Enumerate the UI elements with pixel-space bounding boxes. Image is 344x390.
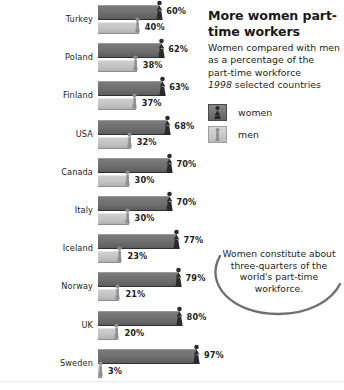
male-figure-icon [97,361,104,377]
value-label-men: 40% [145,22,165,32]
bar-women [98,158,169,173]
value-label-women: 79% [186,273,206,283]
legend-item-men: men [208,124,344,146]
female-figure-icon [175,306,184,327]
bar-women [98,234,177,249]
male-figure-icon [134,17,141,33]
female-figure-icon [174,267,183,288]
value-label-men: 21% [125,289,145,299]
chart-row: Sweden97%3% [0,346,200,385]
value-label-men: 3% [108,366,122,376]
country-label: Sweden [0,359,93,368]
bar-group: 60%40% [98,2,200,41]
infographic-root: Turkey60%40%Poland62%38%Finland63%37%USA… [0,0,344,390]
female-figure-icon [155,0,164,21]
country-label: UK [0,321,93,330]
callout-text: Women constitute about three-quarters of… [220,248,338,294]
subtitle-line-3: part-time workforce [208,67,344,79]
male-figure-icon [114,284,121,300]
chart-row: Canada70%30% [0,155,200,194]
value-label-women: 80% [187,312,207,322]
legend-item-women: women [208,102,344,124]
chart-row: Finland63%37% [0,78,200,117]
chart-row: Turkey60%40% [0,2,200,41]
male-figure-icon [208,126,227,143]
source-year: 1998 [208,79,232,90]
value-label-men: 20% [124,328,144,338]
bar-women [98,311,180,326]
country-label: Finland [0,91,93,100]
male-figure-icon [124,170,131,186]
info-panel: More women part-time workers Women compa… [208,8,344,146]
female-figure-icon [192,344,201,365]
value-label-women: 97% [204,350,224,360]
bar-group: 63%37% [98,78,200,117]
subtitle-block: Women compared with men as a percentage … [208,42,344,92]
female-figure-icon [165,153,174,174]
male-figure-icon [113,323,120,339]
legend-label-women: women [238,107,272,118]
country-label: USA [0,130,93,139]
bar-group: 62%38% [98,40,200,79]
male-figure-icon [124,208,131,224]
chart-row: Norway79%21% [0,269,200,308]
chart-row: UK80%20% [0,308,200,347]
country-label: Turkey [0,15,93,24]
female-figure-icon [158,76,167,97]
bar-women [98,196,169,211]
female-figure-icon [157,38,166,59]
value-label-women: 70% [176,159,196,169]
bar-group: 77%23% [98,231,200,270]
subtitle-line-1: Women compared with men [208,42,344,54]
value-label-women: 70% [176,197,196,207]
male-figure-icon [132,55,139,71]
female-figure-icon [163,115,172,136]
bar-men [98,22,139,34]
bar-group: 70%30% [98,193,200,232]
chart-row: Italy70%30% [0,193,200,232]
bar-women [98,5,159,20]
value-label-women: 63% [169,82,189,92]
value-label-women: 60% [166,6,186,16]
bar-group: 79%21% [98,269,200,308]
bar-group: 70%30% [98,155,200,194]
bar-women [98,272,179,287]
source-note: 1998 selected countries [208,79,344,91]
female-figure-icon [165,191,174,212]
value-label-men: 30% [135,175,155,185]
source-note-text: selected countries [235,79,321,90]
male-figure-icon [131,93,138,109]
country-label: Italy [0,206,93,215]
value-label-men: 30% [135,213,155,223]
value-label-women: 62% [168,44,188,54]
legend: women men [208,102,344,146]
country-label: Poland [0,53,93,62]
subtitle-line-2: as a percentage of the [208,54,344,66]
chart-row: USA68%32% [0,117,200,156]
bar-group: 97%3% [98,346,200,385]
bar-women [98,43,161,58]
footer-divider [0,381,344,382]
bar-chart: Turkey60%40%Poland62%38%Finland63%37%USA… [0,0,200,390]
male-figure-icon [126,132,133,148]
country-label: Canada [0,168,93,177]
value-label-women: 68% [174,121,194,131]
callout-annotation: Women constitute about three-quarters of… [206,248,344,334]
value-label-men: 37% [142,98,162,108]
male-figure-icon [116,246,123,262]
chart-row: Poland62%38% [0,40,200,79]
value-label-men: 32% [137,137,157,147]
legend-label-men: men [238,129,259,140]
value-label-men: 23% [127,251,147,261]
bar-group: 68%32% [98,117,200,156]
page-title: More women part-time workers [208,8,344,39]
value-label-women: 77% [184,235,204,245]
country-label: Norway [0,282,93,291]
bar-group: 80%20% [98,308,200,347]
country-label: Iceland [0,244,93,253]
female-figure-icon [208,104,227,121]
value-label-men: 38% [143,60,163,70]
bar-women [98,120,167,135]
female-figure-icon [172,229,181,250]
bar-women [98,349,197,364]
